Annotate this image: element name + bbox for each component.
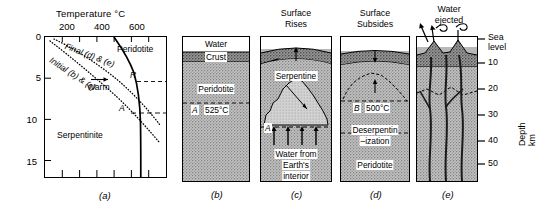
panel-b-cross-section: Water Crust Peridotite A 525°C <box>182 36 250 182</box>
depth-label-50: 50 <box>488 158 498 168</box>
label-water-source-line2: Earth's <box>282 160 310 170</box>
label-serpentine: Serpentine <box>275 71 318 81</box>
xtick-label-600: 600 <box>129 22 145 32</box>
panel-caption-c: (c) <box>291 189 302 200</box>
panel-d-header-line2: Subsides <box>340 19 410 30</box>
ytick-label-15: 15 <box>21 157 37 167</box>
depth-label-sea-level: Sea level <box>488 32 506 52</box>
panel-d-header-line1: Surface <box>340 8 410 19</box>
depth-label-20: 20 <box>488 83 498 93</box>
water-ejection-plumes <box>416 10 478 44</box>
label-water-source-line3: interior <box>282 171 310 181</box>
label-peridotite: Peridotite <box>197 84 234 94</box>
panel-d-header: Surface Subsides <box>340 8 410 29</box>
plot-area: Peridotite Serpentinite Final (d) & (e) … <box>44 36 167 178</box>
field-label-peridotite: Peridotite <box>117 44 153 54</box>
depth-axis-title: Depth km <box>517 123 537 146</box>
panel-c-header: Surface Rises <box>260 8 332 29</box>
label-deserpentinization-line1: Deserpentin <box>351 125 398 135</box>
label-point-a: A <box>191 105 199 115</box>
field-label-serpentinite: Serpentinite <box>57 130 103 140</box>
panel-e-graphics <box>417 37 477 181</box>
label-temperature-525: 525°C <box>204 105 229 115</box>
panel-caption-b: (b) <box>211 189 223 200</box>
panel-d-cross-section: B 500°C Deserpentin –ization Peridotite <box>340 36 410 182</box>
label-deserpentinization-line2: –ization <box>360 136 391 146</box>
panel-c-header-line2: Rises <box>260 19 332 30</box>
panel-caption-d: (d) <box>370 189 382 200</box>
label-temperature-500: 500°C <box>365 103 390 113</box>
panel-caption-a: (a) <box>99 190 111 201</box>
point-label-r: R <box>130 70 136 80</box>
warm-arrow-label: Warm <box>87 82 110 92</box>
label-water: Water <box>204 39 228 49</box>
ytick-label-10: 10 <box>21 115 37 125</box>
panel-a-phase-diagram: Temperature °C 200 400 600 0 5 10 15 Pre… <box>0 0 176 215</box>
panel-e-cross-section <box>416 36 478 182</box>
depth-label-30: 30 <box>488 109 498 119</box>
panel-c-header-line1: Surface <box>260 8 332 19</box>
label-water-source-line1: Water from <box>274 149 317 159</box>
panel-c-cross-section: Serpentine A Water from Earth's interior <box>260 36 332 182</box>
ytick-label-0: 0 <box>25 32 41 42</box>
depth-scale-ticks <box>478 36 488 182</box>
depth-label-10: 10 <box>488 57 498 67</box>
xtick-label-400: 400 <box>94 22 110 32</box>
xtick-label-200: 200 <box>59 22 75 32</box>
x-axis-title: Temperature °C <box>56 9 125 19</box>
label-point-b: B <box>353 103 361 113</box>
point-label-a: A <box>119 103 125 113</box>
label-peridotite: Peridotite <box>356 160 393 170</box>
ytick-label-5: 5 <box>25 73 41 83</box>
label-crust: Crust <box>205 52 227 62</box>
panel-caption-e: (e) <box>442 189 454 200</box>
depth-label-40: 40 <box>488 135 498 145</box>
label-point-a: A <box>264 123 272 133</box>
